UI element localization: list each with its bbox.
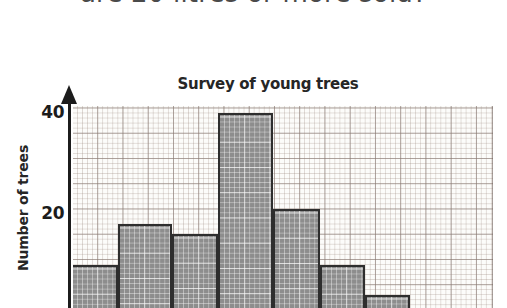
plot-area bbox=[73, 106, 493, 308]
bar bbox=[365, 295, 410, 308]
chart-title: Survey of young trees bbox=[118, 75, 418, 93]
y-axis-tick-labels: 40 20 bbox=[24, 0, 64, 308]
bar bbox=[320, 265, 365, 308]
bar bbox=[118, 224, 172, 308]
y-tick-label-20: 20 bbox=[30, 203, 64, 223]
bar bbox=[273, 209, 320, 308]
y-axis-arrow-icon bbox=[61, 85, 77, 104]
worksheet-page: are 20 litres or more sold? Survey of yo… bbox=[0, 0, 507, 308]
y-axis-line bbox=[68, 100, 71, 308]
y-tick-label-40: 40 bbox=[30, 102, 64, 122]
bar bbox=[218, 113, 273, 308]
question-text: are 20 litres or more sold? bbox=[0, 0, 507, 8]
bar bbox=[172, 234, 218, 308]
bar bbox=[73, 265, 118, 308]
